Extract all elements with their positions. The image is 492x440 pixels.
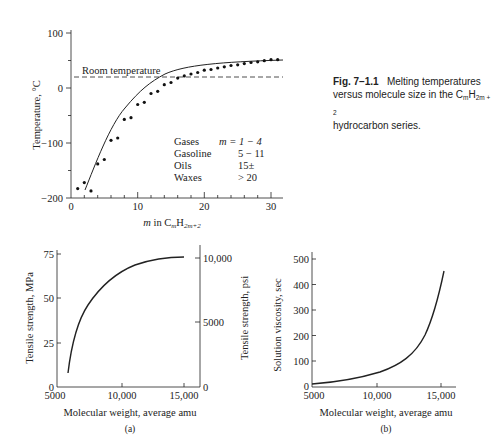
caption-label: Fig. 7–1.1 [333,76,379,87]
y2-tick-label: 0 [203,382,208,393]
legend-class: Gasoline [174,148,212,159]
y-tick-label: 75 [44,249,55,260]
x-tick-label: 0 [68,201,73,212]
y-tick-label: 25 [44,338,55,349]
caption-text: Melting temperatures [387,76,481,87]
legend-class: Gases [174,136,199,147]
x-axis-title: Molecular weight, average amu [320,407,454,418]
hydrocarbon-legend-table: Gases Gasoline Oils Waxes m = 1 − 4 5 − … [174,136,265,183]
legend-range: m = 1 − 4 [219,136,263,147]
y2-tick-label: 10,000 [203,253,232,264]
y-tick-label: 300 [293,305,309,316]
x-ticks [84,192,271,198]
figure-canvas: 100 0 −100 −200 0 10 20 30 Room temperat… [0,0,492,440]
y-tick-label: 200 [293,331,309,342]
y-tick-label: 400 [293,280,309,291]
tensile-curve [68,257,184,373]
y2-axis-title: Tensile strength, psi [239,276,250,360]
y-tick-label: −200 [41,193,63,204]
y-axis-title: Temperature, °C [31,80,42,149]
solution-viscosity-chart [312,252,456,387]
legend-range: > 20 [238,172,257,183]
x-tick-label: 15,000 [427,390,456,401]
x-tick-label: 30 [266,201,277,212]
caption-text: H [468,89,475,100]
x-tick-label: 10,000 [363,390,392,401]
legend-range: 15± [238,160,255,171]
x-tick-label: 5000 [304,390,325,401]
ticks [57,254,200,387]
y-axis-title: Solution viscosity, sec [272,278,283,372]
chart-b-labels: 500 400 300 200 100 0 5000 10,000 15,000… [272,254,455,435]
chart-a-labels: 75 50 25 0 10,000 5000 0 5000 10,000 15,… [24,249,250,435]
y-tick-label: 100 [47,28,63,39]
tensile-strength-chart [57,245,200,387]
x-tick-label: 10,000 [108,390,137,401]
x-tick-label: 15,000 [170,390,199,401]
caption-text: hydrocarbon series. [333,120,421,131]
legend-class: Waxes [174,172,202,183]
legend-class: Oils [174,160,192,171]
y2-tick-label: 5000 [203,317,224,328]
y-ticks [66,33,71,198]
figure-caption: Fig. 7–1.1 Melting temperatures versus m… [333,76,492,132]
viscosity-curve [312,271,444,384]
panel-label: (b) [380,424,391,435]
panel-label: (a) [125,424,136,435]
y-tick-label: 50 [44,293,55,304]
room-temperature-label: Room temperature [82,65,161,76]
top-chart-labels: 100 0 −100 −200 0 10 20 30 Room temperat… [31,28,276,230]
y-tick-label: 100 [293,356,309,367]
y-axis-title: Tensile strength, MPa [24,272,35,364]
caption-text: versus molecule size in the C [333,89,463,100]
y-tick-label: 0 [58,83,63,94]
y-tick-label: −100 [41,138,63,149]
x-tick-label: 10 [132,201,143,212]
x-tick-label: 5000 [45,390,66,401]
legend-range: 5 − 11 [238,148,265,159]
ticks [312,259,441,387]
x-tick-label: 20 [199,201,210,212]
y-tick-label: 500 [293,254,309,265]
x-axis-title: Molecular weight, average amu [64,407,198,418]
x-axis-title: m in CmH2m+2 [143,217,201,230]
